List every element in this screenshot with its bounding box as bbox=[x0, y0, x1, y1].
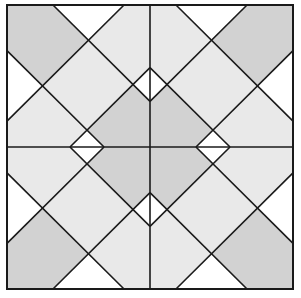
quadrant-top-right bbox=[150, 5, 293, 147]
quadrant-bottom-right bbox=[150, 147, 293, 289]
quilt-block bbox=[7, 5, 293, 289]
quilt-block-diagram bbox=[0, 0, 301, 298]
quadrant-bottom-left bbox=[7, 147, 150, 289]
quadrant-top-left bbox=[7, 5, 150, 147]
